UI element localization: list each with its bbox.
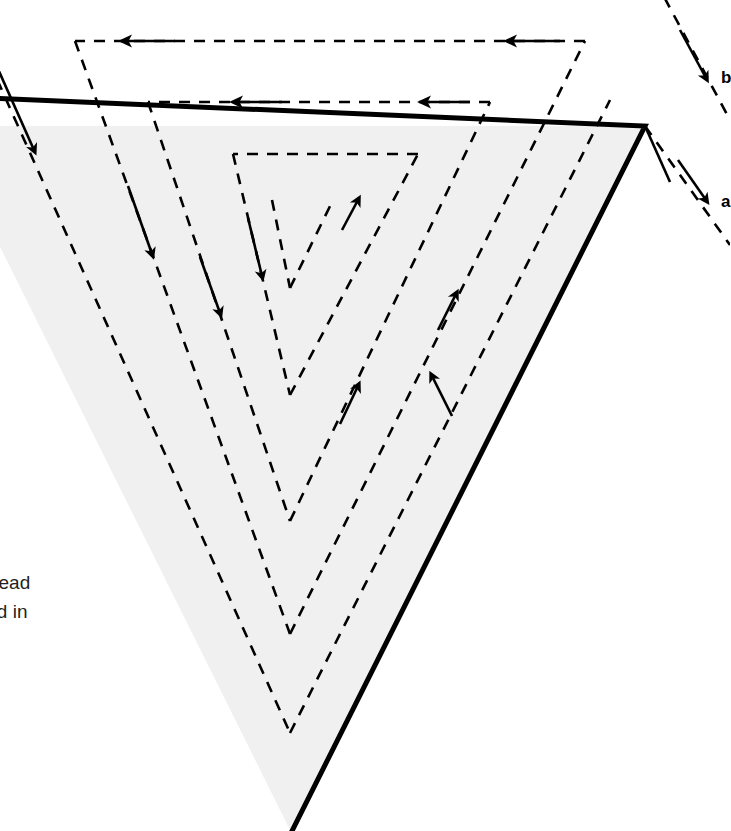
label-a: a <box>721 192 730 212</box>
exit-path-a <box>645 126 730 245</box>
exit-path-a-line <box>645 126 730 245</box>
wedge-apex-tick <box>645 126 670 182</box>
exit-path-b-line <box>655 0 730 120</box>
exit-path-b <box>655 0 730 120</box>
caption-line-2: ad in <box>0 601 28 623</box>
exit-path-b-arrow <box>680 30 706 78</box>
wedge-fill <box>0 126 645 830</box>
label-b: b <box>721 68 731 88</box>
wedge-region <box>0 96 670 831</box>
caption-line-1: read <box>0 572 30 594</box>
